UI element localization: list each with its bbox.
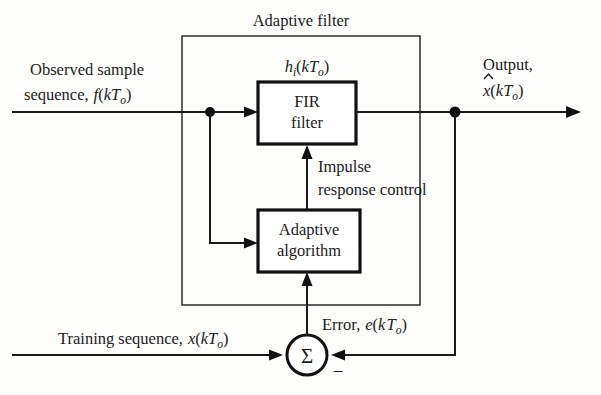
error-label: Error,e(kTo) [322, 315, 407, 336]
output-paren-close: ) [518, 81, 524, 100]
observed-sample-label-line1: Observed sample [30, 60, 144, 79]
adaptive-input-arrowhead-icon [244, 238, 258, 249]
fir-filter-label-line1: FIR [294, 92, 320, 111]
output-arrowhead-icon [566, 106, 581, 118]
training-paren-close: ) [223, 329, 229, 348]
impulse-response-label-line1: Impulse [318, 157, 371, 176]
training-prefix: Training sequence, [58, 329, 183, 348]
diagram-canvas: FIR filter Adaptive algorithm Σ − Adapti… [0, 0, 601, 395]
output-label-line2: x(kTo) [482, 81, 524, 102]
error-arrowhead-icon [302, 272, 313, 286]
fir-filter-label-line2: filter [291, 113, 324, 132]
input-arrowhead-icon [244, 107, 258, 118]
coeff-paren-close: ) [324, 57, 330, 76]
input-tap-wire [210, 112, 252, 243]
adaptive-filter-diagram: FIR filter Adaptive algorithm Σ − Adapti… [0, 0, 601, 395]
error-paren-close: ) [401, 315, 407, 334]
error-k: k [378, 315, 386, 334]
feedback-arrowhead-icon [331, 350, 345, 361]
adaptive-algorithm-label-line1: Adaptive [279, 220, 339, 239]
error-prefix: Error, [322, 315, 360, 334]
minus-sign-label: − [333, 361, 344, 382]
summing-junction-symbol: Σ [301, 344, 313, 368]
adaptive-algorithm-label-line2: algorithm [277, 241, 341, 260]
observed-sample-label-line2: sequence,f(kTo) [24, 85, 131, 106]
error-e: e [365, 315, 372, 334]
training-sequence-label: Training sequence,x(kTo) [58, 329, 229, 350]
filter-coefficients-label: hi(kTo) [285, 57, 330, 78]
output-x-circumflex-icon [484, 74, 493, 79]
impulse-response-label-line2: response control [318, 180, 427, 199]
input-seq-paren-close: ) [126, 85, 132, 104]
output-label-line1: Output, [483, 55, 533, 74]
coeff-h: h [285, 57, 293, 76]
impulse-response-arrowhead-icon [302, 145, 313, 159]
training-arrowhead-icon [269, 350, 283, 361]
input-seq-prefix: sequence, [24, 85, 89, 104]
adaptive-filter-boundary-label: Adaptive filter [253, 11, 350, 30]
